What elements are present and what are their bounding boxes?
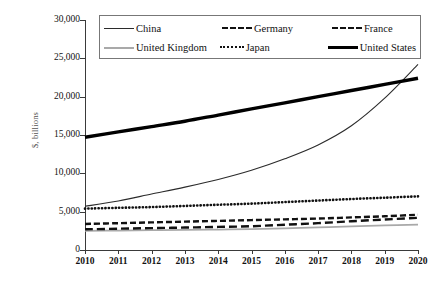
legend-item-japan[interactable]: Japan bbox=[220, 42, 328, 53]
line-dashed-icon bbox=[222, 24, 252, 34]
legend-item-germany[interactable]: Germany bbox=[222, 23, 332, 34]
line-solid-thin-icon bbox=[104, 24, 134, 34]
line-chart: $, billions 05,00010,00015,00020,00025,0… bbox=[0, 0, 436, 284]
series-line-japan bbox=[85, 196, 418, 208]
legend-label-united-kingdom: United Kingdom bbox=[134, 42, 207, 53]
legend-row-2: United Kingdom Japan United States bbox=[104, 38, 416, 57]
line-solid-thick-icon bbox=[328, 43, 358, 53]
legend-label-japan: Japan bbox=[244, 42, 270, 53]
legend-item-united-states[interactable]: United States bbox=[328, 42, 416, 53]
legend-row-1: China Germany France bbox=[104, 19, 416, 38]
line-dashed-long-icon bbox=[332, 24, 362, 34]
legend-label-china: China bbox=[134, 23, 161, 34]
line-dotted-icon bbox=[220, 43, 244, 53]
legend-item-china[interactable]: China bbox=[104, 23, 222, 34]
series-line-united-states bbox=[85, 78, 418, 137]
chart-legend: China Germany France United Kingdom Japa… bbox=[99, 15, 421, 59]
legend-label-united-states: United States bbox=[358, 42, 416, 53]
legend-item-france[interactable]: France bbox=[332, 23, 393, 34]
line-solid-gray-icon bbox=[104, 43, 134, 53]
legend-label-germany: Germany bbox=[252, 23, 293, 34]
legend-item-united-kingdom[interactable]: United Kingdom bbox=[104, 42, 220, 53]
legend-label-france: France bbox=[362, 23, 393, 34]
